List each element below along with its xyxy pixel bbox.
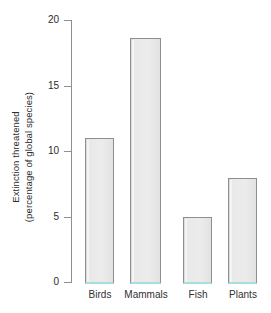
y-tick-mark-15 xyxy=(64,86,72,87)
plot-area: 20 15 10 5 0 Birds Mammals Fish Plants xyxy=(0,0,271,313)
x-axis-label-plants: Plants xyxy=(220,289,266,301)
y-tick-label-10: 10 xyxy=(19,146,59,156)
y-tick-mark-20 xyxy=(64,20,72,21)
y-tick-mark-10 xyxy=(64,151,72,152)
bar-birds xyxy=(85,138,114,284)
x-axis-label-fish: Fish xyxy=(176,289,220,301)
y-tick-label-20: 20 xyxy=(19,15,59,25)
y-tick-label-0: 0 xyxy=(19,277,59,287)
y-tick-label-15: 15 xyxy=(19,81,59,91)
bar-sheen xyxy=(230,180,232,282)
bar-sheen xyxy=(87,140,89,282)
bar-fish xyxy=(183,217,212,284)
bar-sheen xyxy=(132,40,134,282)
y-tick-mark-5 xyxy=(64,217,72,218)
y-tick-label-5: 5 xyxy=(19,212,59,222)
x-axis-label-mammals: Mammals xyxy=(117,289,175,301)
bar-plants xyxy=(228,178,257,284)
extinction-threatened-bar-chart: Extinction threatened (percentage of glo… xyxy=(0,0,271,313)
bar-sheen xyxy=(185,219,187,282)
x-axis-label-birds: Birds xyxy=(78,289,122,301)
bar-mammals xyxy=(130,38,161,284)
y-tick-mark-0 xyxy=(64,282,72,283)
